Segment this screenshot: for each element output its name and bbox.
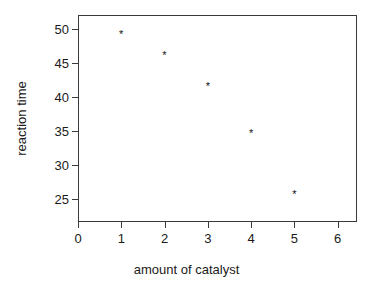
y-axis-title: reaction time: [14, 81, 29, 155]
x-tick-mark: [165, 222, 166, 228]
y-tick-mark: [72, 131, 78, 132]
y-tick-mark: [72, 63, 78, 64]
x-tick-label: 2: [161, 231, 168, 246]
y-tick-mark: [72, 97, 78, 98]
plot-area: 253035404550 0123456 *****: [78, 15, 357, 222]
x-tick-label: 3: [204, 231, 211, 246]
y-tick-label: 40: [55, 90, 69, 105]
x-tick-mark: [78, 222, 79, 228]
data-point: *: [117, 30, 126, 39]
y-tick-mark: [72, 165, 78, 166]
y-tick-label: 30: [55, 157, 69, 172]
x-tick-mark: [121, 222, 122, 228]
y-tick-label: 25: [55, 191, 69, 206]
x-tick-label: 0: [74, 231, 81, 246]
y-tick-mark: [72, 199, 78, 200]
chart-page: 253035404550 0123456 ***** reaction time…: [0, 0, 373, 297]
y-tick-mark: [72, 29, 78, 30]
x-tick-mark: [251, 222, 252, 228]
y-tick-label: 50: [55, 22, 69, 37]
x-tick-mark: [208, 222, 209, 228]
data-point: *: [290, 190, 299, 199]
data-point: *: [247, 129, 256, 138]
x-tick-label: 1: [118, 231, 125, 246]
y-tick-label: 45: [55, 56, 69, 71]
x-tick-mark: [338, 222, 339, 228]
y-axis-title-wrap: reaction time: [10, 15, 32, 222]
y-tick-label: 35: [55, 124, 69, 139]
x-tick-label: 5: [291, 231, 298, 246]
data-point: *: [203, 82, 212, 91]
x-tick-label: 4: [247, 231, 254, 246]
data-point: *: [160, 51, 169, 60]
x-tick-label: 6: [334, 231, 341, 246]
x-axis-title: amount of catalyst: [0, 262, 373, 277]
x-tick-mark: [294, 222, 295, 228]
